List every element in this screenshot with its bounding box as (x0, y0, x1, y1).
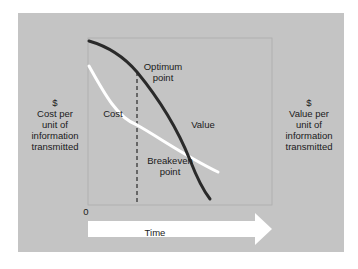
cost-curve-label: Cost (98, 108, 128, 119)
time-axis-label: Time (120, 227, 190, 238)
right-axis-line: unit of (274, 119, 344, 130)
breakeven-label-line: point (140, 166, 200, 177)
optimum-label-line: point (138, 72, 188, 83)
origin-label: 0 (80, 206, 92, 217)
right-axis-label: $ Value per unit of information transmit… (274, 97, 344, 152)
value-curve-label: Value (188, 119, 218, 130)
left-axis-line: transmitted (22, 141, 88, 152)
breakeven-point-label: Breakeven point (140, 155, 200, 177)
right-axis-line: Value per (274, 108, 344, 119)
right-axis-symbol: $ (274, 97, 344, 108)
optimum-point-label: Optimum point (138, 61, 188, 83)
right-axis-line: transmitted (274, 141, 344, 152)
left-axis-symbol: $ (22, 97, 88, 108)
left-axis-line: Cost per (22, 108, 88, 119)
right-axis-line: information (274, 130, 344, 141)
optimum-label-line: Optimum (138, 61, 188, 72)
left-axis-line: unit of (22, 119, 88, 130)
left-axis-line: information (22, 130, 88, 141)
breakeven-label-line: Breakeven (140, 155, 200, 166)
left-axis-label: $ Cost per unit of information transmitt… (22, 97, 88, 152)
